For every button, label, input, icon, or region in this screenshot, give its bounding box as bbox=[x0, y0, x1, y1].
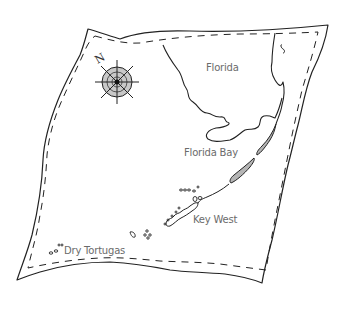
middle-keys bbox=[230, 158, 254, 183]
compass-rose-icon bbox=[95, 60, 139, 104]
map-dashed-border bbox=[28, 32, 318, 270]
upper-keys bbox=[257, 124, 276, 155]
dry-tortugas-islands bbox=[49, 244, 63, 254]
label-dry-tortugas: Dry Tortugas bbox=[64, 245, 125, 256]
map-illustration bbox=[0, 0, 346, 310]
florida-coastline bbox=[163, 45, 282, 141]
lake-mark bbox=[281, 45, 285, 53]
label-key-west: Key West bbox=[193, 214, 237, 225]
florida-east-coast bbox=[271, 33, 284, 124]
label-florida-bay: Florida Bay bbox=[184, 147, 238, 158]
keys-chain bbox=[198, 184, 229, 203]
label-florida: Florida bbox=[206, 62, 239, 73]
small-islands bbox=[130, 186, 202, 239]
